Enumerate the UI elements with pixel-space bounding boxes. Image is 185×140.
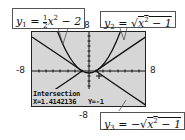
callout-y3: y3 = −√x2 − 1 [100,112,185,130]
status-y: Y=-1 [88,98,104,106]
graph-screen: Intersection X=1.4142136 Y=-1 [31,31,146,107]
ymin-label: -8 [79,110,88,120]
xmin-label: -8 [16,65,25,75]
xmax-label: 8 [150,65,156,75]
status-x: X=1.4142136 [33,98,76,106]
status-coords: X=1.4142136 Y=-1 [33,98,104,106]
callout-y2: y2 = √x2 − 1 [100,11,176,28]
callout-y1: y1 = 12x2 − 2 [12,8,85,29]
status-title: Intersection [33,90,80,98]
